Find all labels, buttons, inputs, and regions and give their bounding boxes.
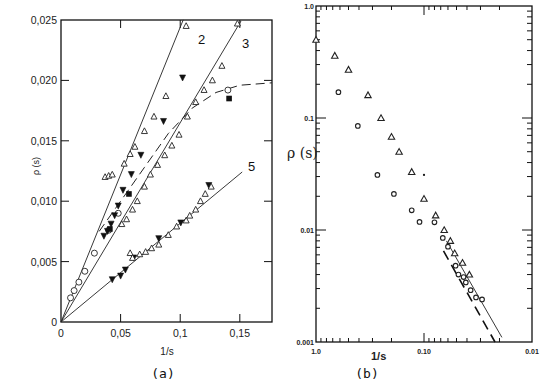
- data-point: [392, 192, 397, 197]
- data-points-a: [68, 20, 241, 301]
- data-point: [128, 172, 134, 178]
- data-point: [219, 63, 225, 69]
- x-tick-label-b: 0.10: [417, 348, 431, 355]
- data-point: [151, 113, 157, 119]
- x-tick-label-a: 0: [58, 327, 64, 339]
- data-point: [149, 245, 155, 251]
- data-point: [474, 295, 479, 300]
- fit-line-b-dashed: [443, 251, 495, 342]
- x-axis-label-b: 1/s: [371, 350, 386, 362]
- data-point: [107, 226, 113, 232]
- data-point: [120, 187, 126, 193]
- data-point: [101, 233, 107, 239]
- data-point: [202, 191, 208, 197]
- x-tick-label-a: 0,1: [173, 327, 188, 339]
- data-point: [456, 272, 461, 277]
- data-point: [68, 295, 74, 301]
- data-point: [447, 238, 453, 244]
- fit-line-saturation: [99, 83, 272, 232]
- figure: 00,050,10,1500,0050,0100,0150,0200,025 ρ…: [0, 0, 548, 385]
- curve-label-2: 2: [198, 32, 205, 47]
- y-tick-label-a: 0,015: [31, 135, 57, 147]
- data-point: [130, 206, 136, 212]
- y-axis-label-b: ρ (s): [287, 145, 318, 161]
- data-point: [163, 93, 169, 99]
- y-tick-label-b: 1.0: [304, 3, 314, 10]
- data-point: [365, 92, 371, 98]
- y-tick-label-a: 0,010: [31, 195, 57, 207]
- curve-label-5: 5: [248, 159, 255, 174]
- data-point: [197, 198, 203, 204]
- data-point: [480, 297, 485, 302]
- y-tick-label-a: 0,005: [31, 256, 57, 268]
- data-point: [336, 90, 341, 95]
- x-axis-label-a: 1/s: [160, 346, 173, 357]
- data-point: [127, 151, 133, 157]
- data-point: [91, 250, 97, 256]
- data-point: [82, 268, 88, 274]
- y-tick-label-a: 0: [51, 316, 57, 328]
- data-point: [423, 174, 425, 176]
- data-point: [141, 128, 147, 134]
- x-tick-label-a: 0,15: [230, 327, 251, 339]
- data-point: [464, 280, 469, 285]
- data-point: [453, 263, 458, 268]
- data-point: [180, 75, 186, 81]
- x-tick-label-b: 0.01: [525, 348, 539, 355]
- data-point: [375, 173, 380, 178]
- y-axis-label-a: ρ (s): [31, 157, 41, 175]
- curve-label-3: 3: [242, 36, 249, 51]
- panel-b: 1.00.100.010.0010.010.11.0 ρ (s) 1/s (b): [287, 3, 539, 381]
- data-point: [183, 23, 189, 29]
- y-tick-label-b: 0.01: [300, 227, 314, 234]
- data-point: [345, 66, 351, 72]
- data-point: [432, 212, 438, 218]
- data-point: [137, 251, 143, 257]
- data-point: [201, 87, 207, 93]
- data-point: [441, 227, 447, 233]
- data-point: [209, 77, 215, 83]
- data-point: [161, 118, 167, 124]
- x-tick-label-b: 1.0: [311, 348, 321, 355]
- y-tick-label-b: 0.001: [296, 339, 314, 346]
- data-point: [226, 96, 232, 102]
- x-tick-label-a: 0,05: [110, 327, 131, 339]
- data-point: [388, 134, 394, 140]
- data-point: [124, 216, 130, 222]
- data-point: [421, 196, 427, 202]
- y-tick-label-a: 0,025: [31, 14, 57, 26]
- data-point: [468, 288, 473, 293]
- plot-frame-a: [61, 20, 272, 322]
- data-point: [176, 131, 182, 137]
- data-point: [109, 171, 115, 177]
- data-point: [378, 115, 384, 121]
- y-tick-label-a: 0,020: [31, 74, 57, 86]
- data-point: [466, 271, 472, 277]
- fit-lines-a: [61, 20, 272, 322]
- data-point: [459, 260, 465, 266]
- data-point: [147, 171, 153, 177]
- data-point: [118, 273, 124, 279]
- data-point: [138, 152, 144, 158]
- data-point: [461, 275, 466, 280]
- data-point: [169, 142, 175, 148]
- data-point: [417, 220, 422, 225]
- panel-a: 00,050,10,1500,0050,0100,0150,0200,025 ρ…: [31, 14, 272, 381]
- data-point: [332, 52, 338, 58]
- caption-b: (b): [355, 366, 378, 381]
- data-point: [356, 124, 361, 129]
- data-point: [432, 220, 437, 225]
- caption-a: (a): [151, 366, 174, 381]
- data-point: [71, 288, 77, 294]
- data-point: [408, 169, 414, 175]
- data-point: [440, 236, 445, 241]
- data-point: [409, 208, 414, 213]
- data-point: [225, 87, 231, 93]
- data-point: [446, 244, 451, 249]
- y-tick-label-b: 0.1: [304, 115, 314, 122]
- data-point: [126, 191, 132, 197]
- data-point: [143, 249, 149, 255]
- data-point: [76, 279, 82, 285]
- data-point: [396, 149, 402, 155]
